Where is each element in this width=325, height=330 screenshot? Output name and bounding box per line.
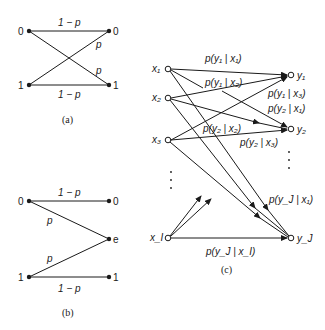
panel-a-binary-symmetric-channel: 0 1 0 1 1 − p p p 1 − p (a) [18,17,119,126]
caption-b: (b) [62,307,74,319]
edge-label-0-to-e: p [46,215,53,226]
output-label-1: 1 [113,272,119,283]
node-input-1 [27,83,31,87]
edge-x2-to-yJ-b [255,208,289,236]
output-label-1: 1 [113,80,119,91]
edge-x2-to-yJ-a [170,100,255,208]
input-label-1: 1 [18,272,24,283]
edge-x2-to-y2-a [171,99,259,123]
node-output-0 [107,29,111,33]
label-yJ: y_J [296,233,314,244]
node-input-1 [27,275,31,279]
edge-label-bottom: 1 − p [58,89,81,100]
label-x3: x₃ [151,134,161,145]
node-y1 [288,72,294,78]
label-x2: x₂ [151,92,161,103]
output-label-e: e [113,234,119,245]
label-y2: y₂ [296,124,306,135]
edge-label-top: 1 − p [58,17,81,28]
ellipsis-outputs [288,151,290,169]
output-label-0: 0 [113,196,119,207]
input-label-1: 1 [18,80,24,91]
edge-label-cross-down: p [95,65,102,76]
edge-label-bottom: 1 − p [58,283,81,294]
edge-x1-to-y1 [171,69,287,75]
node-output-0 [107,199,111,203]
node-x3 [165,137,171,143]
node-input-0 [27,199,31,203]
label-p-y1-x2: p(y₁ | x₂) [204,77,242,88]
edge-x2-to-y2-b [259,123,287,129]
edge-x1-to-yJ-b [268,210,289,236]
label-p-y1-x3: p(y₁ | x₃) [267,88,306,99]
node-output-1 [107,275,111,279]
edge-x3-to-yJ-b [260,218,288,237]
node-x1 [165,66,171,72]
ellipsis-inputs [170,171,172,189]
label-p-yJ-xI: p(y_J | x_I) [205,246,255,257]
edge-xI-up-a [170,196,201,236]
channel-diagrams: 0 1 0 1 1 − p p p 1 − p (a) 0 1 0 e 1 1 … [0,0,325,330]
edge-0-to-e [29,201,109,239]
label-y1: y₁ [296,70,305,81]
label-p-y2-x3: p(y₂ | x₃) [239,137,278,148]
node-x2 [165,95,171,101]
edge-label-cross-up: p [95,39,102,50]
label-xI: x_I [149,232,164,243]
label-x1: x₁ [151,63,160,74]
label-p-yJ-x1: p(y_J | x₁) [268,194,313,205]
node-y2 [288,126,294,132]
input-label-0: 0 [18,196,24,207]
label-p-y2-x2: p(y₂ | x₂) [202,123,241,134]
label-p-y2-x1: p(y₂ | x₁) [267,103,305,114]
input-label-0: 0 [18,26,24,37]
panel-b-binary-erasure-channel: 0 1 0 e 1 1 − p p p 1 − p (b) [18,187,119,319]
edge-label-1-to-e: p [46,253,53,264]
node-yJ [288,235,294,241]
node-output-e [107,237,111,241]
caption-a: (a) [62,114,73,126]
edge-xI-up-b [171,199,211,236]
node-input-0 [27,29,31,33]
label-p-y1-x1: p(y₁ | x₁) [204,53,242,64]
node-output-1 [107,83,111,87]
panel-c-discrete-memoryless-channel: x₁ x₂ x₃ x_I y₁ y₂ y_J p(y₁ | x₁) p(y₁ |… [149,53,314,276]
caption-c: (c) [221,264,232,276]
output-label-0: 0 [113,26,119,37]
node-xI [165,235,171,241]
edge-1-to-e [29,239,109,277]
edge-label-top: 1 − p [58,187,81,198]
